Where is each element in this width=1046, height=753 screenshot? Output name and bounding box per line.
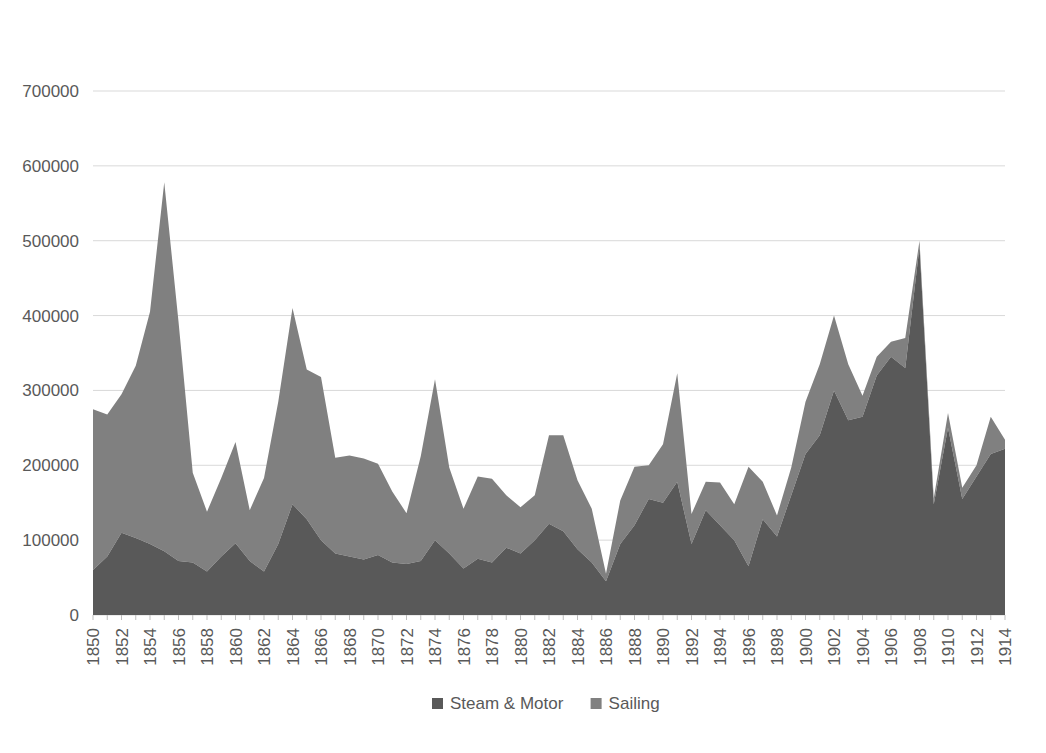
x-tick-label: 1890 xyxy=(654,628,673,666)
area-chart: 0100000200000300000400000500000600000700… xyxy=(0,0,1046,753)
x-tick-label: 1864 xyxy=(284,628,303,666)
x-tick-label: 1856 xyxy=(170,628,189,666)
x-tick-label: 1874 xyxy=(426,628,445,666)
x-tick-label: 1894 xyxy=(711,628,730,666)
x-tick-label: 1914 xyxy=(996,628,1015,666)
x-tick-label: 1912 xyxy=(968,628,987,666)
y-tick-label: 400000 xyxy=(22,307,79,326)
x-tick-label: 1868 xyxy=(341,628,360,666)
x-tick-label: 1910 xyxy=(939,628,958,666)
y-tick-label: 500000 xyxy=(22,232,79,251)
legend-item[interactable]: Steam & Motor xyxy=(432,694,564,713)
stacked-area-series xyxy=(93,182,1005,615)
x-tick-label: 1878 xyxy=(483,628,502,666)
x-tick-label: 1904 xyxy=(854,628,873,666)
x-tick-label: 1876 xyxy=(455,628,474,666)
x-tick-label: 1888 xyxy=(626,628,645,666)
x-axis xyxy=(93,615,1005,620)
y-tick-label: 300000 xyxy=(22,381,79,400)
legend-swatch-icon xyxy=(591,698,602,709)
x-axis-tick-labels: 1850185218541856185818601862186418661868… xyxy=(84,628,1015,666)
x-tick-label: 1906 xyxy=(882,628,901,666)
x-tick-label: 1908 xyxy=(911,628,930,666)
x-tick-label: 1884 xyxy=(569,628,588,666)
chart-canvas: 0100000200000300000400000500000600000700… xyxy=(0,0,1046,753)
x-tick-label: 1872 xyxy=(398,628,417,666)
x-tick-label: 1860 xyxy=(227,628,246,666)
legend-label: Steam & Motor xyxy=(450,694,564,713)
area-series-steam-and-motor xyxy=(93,247,1005,615)
x-tick-label: 1866 xyxy=(312,628,331,666)
y-tick-label: 600000 xyxy=(22,157,79,176)
x-tick-label: 1850 xyxy=(84,628,103,666)
x-tick-label: 1900 xyxy=(797,628,816,666)
y-tick-label: 700000 xyxy=(22,82,79,101)
y-tick-label: 200000 xyxy=(22,456,79,475)
y-axis-tick-labels: 0100000200000300000400000500000600000700… xyxy=(22,82,79,625)
x-tick-label: 1854 xyxy=(141,628,160,666)
x-tick-label: 1852 xyxy=(113,628,132,666)
x-tick-label: 1882 xyxy=(540,628,559,666)
x-tick-label: 1892 xyxy=(683,628,702,666)
legend-label: Sailing xyxy=(609,694,660,713)
chart-legend: Steam & MotorSailing xyxy=(432,694,660,713)
y-tick-label: 100000 xyxy=(22,531,79,550)
legend-swatch-icon xyxy=(432,698,443,709)
x-tick-label: 1902 xyxy=(825,628,844,666)
x-tick-label: 1886 xyxy=(597,628,616,666)
x-tick-label: 1896 xyxy=(740,628,759,666)
y-tick-label: 0 xyxy=(70,606,79,625)
x-tick-label: 1880 xyxy=(512,628,531,666)
x-tick-label: 1858 xyxy=(198,628,217,666)
x-tick-label: 1898 xyxy=(768,628,787,666)
legend-item[interactable]: Sailing xyxy=(591,694,660,713)
x-tick-label: 1862 xyxy=(255,628,274,666)
x-tick-label: 1870 xyxy=(369,628,388,666)
